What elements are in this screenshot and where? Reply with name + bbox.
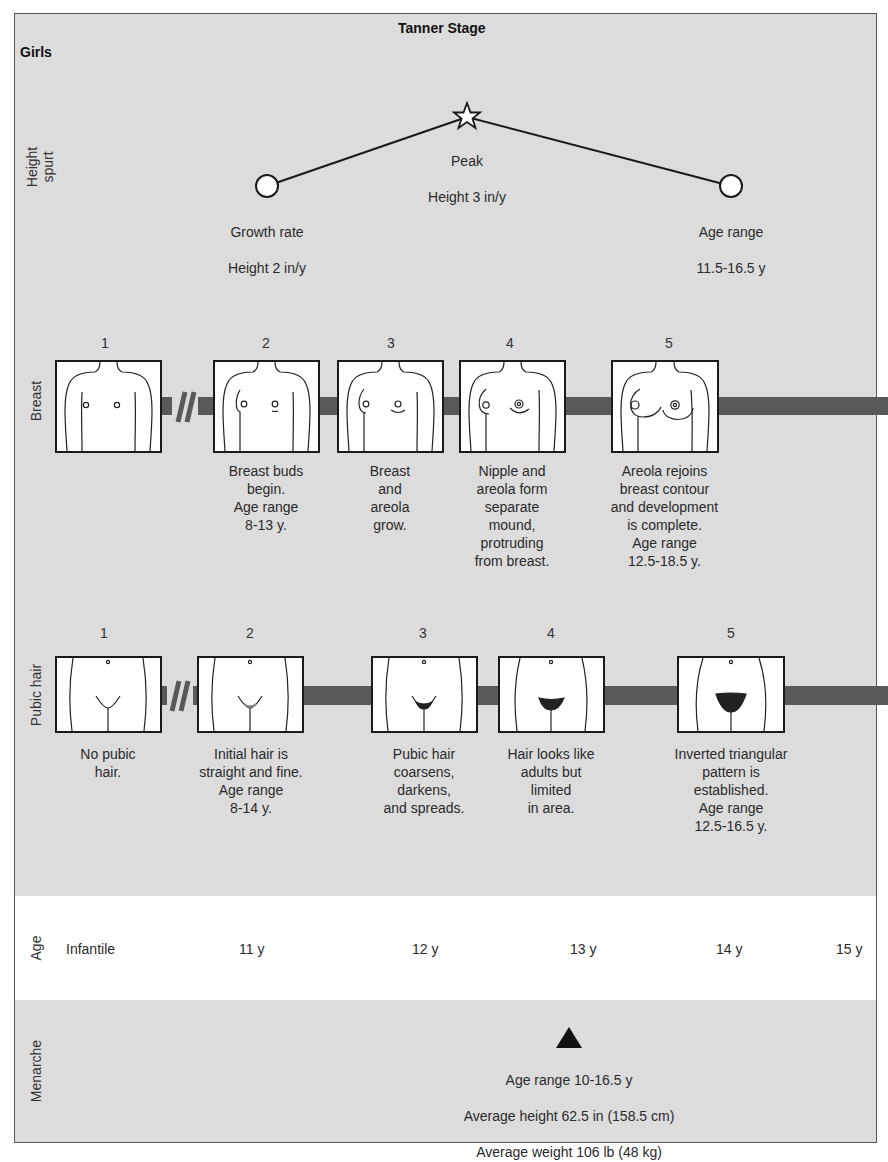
peak-line2: Height 3 in/y xyxy=(407,188,527,206)
pubic-stage-1-number: 1 xyxy=(89,625,119,641)
axis-break-icon xyxy=(172,390,198,424)
axis-break-icon xyxy=(167,679,193,713)
breast-stage-5-number: 5 xyxy=(654,335,684,351)
breast-stage-1-number: 1 xyxy=(90,335,120,351)
pubic-stage-2-illustration xyxy=(197,656,304,733)
breast-stage-2-description: Breast buds begin. Age range 8-13 y. xyxy=(196,462,336,534)
age-label-13: 13 y xyxy=(570,941,596,957)
age-label-14: 14 y xyxy=(716,941,742,957)
peak-label: Peak Height 3 in/y xyxy=(407,134,527,224)
pubic-stage-1-description: No pubic hair. xyxy=(48,745,168,781)
menarche-average-weight: Average weight 106 lb (48 kg) xyxy=(419,1143,719,1161)
pubic-stage-4-number: 4 xyxy=(536,625,566,641)
pubic-stage-2-description: Initial hair is straight and fine. Age r… xyxy=(176,745,326,817)
age-label-12: 12 y xyxy=(412,941,438,957)
breast-stage-3-description: Breast and areola grow. xyxy=(330,462,450,534)
growth-rate-line2: Height 2 in/y xyxy=(207,259,327,277)
age-range-line2: 11.5-16.5 y xyxy=(671,259,791,277)
growth-rate-label: Growth rate Height 2 in/y xyxy=(207,205,327,295)
pubic-stage-3-description: Pubic hair coarsens, darkens, and spread… xyxy=(364,745,484,817)
pubic-stage-3-illustration xyxy=(371,656,478,733)
breast-stage-5-description: Areola rejoins breast contour and develo… xyxy=(592,462,737,570)
breast-stage-5-illustration xyxy=(611,360,719,453)
pubic-stage-3-number: 3 xyxy=(408,625,438,641)
circle-icon xyxy=(720,175,742,197)
breast-stage-4-number: 4 xyxy=(495,335,525,351)
menarche-info: Age range 10-16.5 y Average height 62.5 … xyxy=(419,1053,719,1162)
pubic-stage-4-illustration xyxy=(498,656,605,733)
pubic-stage-1-illustration xyxy=(55,656,162,733)
age-range-label: Age range 11.5-16.5 y xyxy=(671,205,791,295)
breast-stage-4-description: Nipple and areola form separate mound, p… xyxy=(452,462,572,570)
breast-stage-1-illustration xyxy=(55,360,162,453)
row-label-menarche: Menarche xyxy=(28,1036,46,1106)
pubic-stage-5-number: 5 xyxy=(716,625,746,641)
breast-stage-3-illustration xyxy=(337,360,444,453)
pubic-stage-4-description: Hair looks like adults but limited in ar… xyxy=(491,745,611,817)
breast-stage-2-illustration xyxy=(213,360,320,453)
peak-line1: Peak xyxy=(407,152,527,170)
breast-stage-4-illustration xyxy=(459,360,566,453)
menarche-age-range: Age range 10-16.5 y xyxy=(419,1071,719,1089)
pubic-stage-2-number: 2 xyxy=(235,625,265,641)
row-label-age-overlay: Age xyxy=(28,933,46,963)
circle-icon xyxy=(256,175,278,197)
age-axis-band xyxy=(15,896,876,1000)
row-label-breast: Breast xyxy=(28,376,46,426)
row-label-pubic-hair: Pubic hair xyxy=(28,660,46,730)
age-label-15: 15 y xyxy=(836,941,862,957)
age-label-infantile: Infantile xyxy=(66,941,115,957)
growth-rate-line1: Growth rate xyxy=(207,223,327,241)
pubic-stage-5-description: Inverted triangular pattern is establish… xyxy=(656,745,806,835)
age-label-11: 11 y xyxy=(239,941,264,957)
pubic-stage-5-illustration xyxy=(677,656,785,733)
menarche-average-height: Average height 62.5 in (158.5 cm) xyxy=(419,1107,719,1125)
breast-stage-2-number: 2 xyxy=(251,335,281,351)
age-range-line1: Age range xyxy=(671,223,791,241)
star-icon xyxy=(454,103,480,128)
triangle-icon xyxy=(555,1025,583,1049)
breast-stage-3-number: 3 xyxy=(376,335,406,351)
